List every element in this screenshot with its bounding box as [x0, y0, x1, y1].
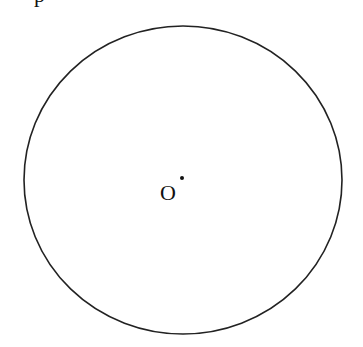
center-point	[180, 176, 184, 180]
circle	[24, 26, 342, 334]
center-label: O	[160, 182, 176, 204]
diagram-canvas	[0, 0, 363, 347]
cutoff-text: p	[34, 0, 45, 6]
circle-diagram: p O	[0, 0, 363, 347]
